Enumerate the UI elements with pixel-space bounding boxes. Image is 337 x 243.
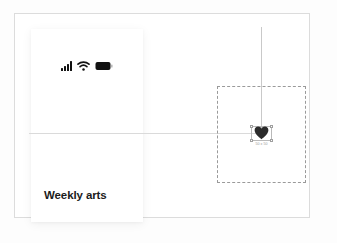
- battery-icon: [95, 61, 113, 71]
- page-title: Weekly arts: [44, 189, 107, 201]
- selected-object[interactable]: 50 x 50: [251, 126, 272, 150]
- dimension-label: 50 x 50: [251, 142, 272, 146]
- signal-icon: [61, 61, 72, 71]
- status-bar: [31, 57, 143, 75]
- artboard[interactable]: Weekly arts 50 x 50: [14, 13, 310, 218]
- resize-handle-top-left[interactable]: [250, 125, 253, 128]
- wifi-icon: [77, 61, 90, 71]
- mobile-preview-card[interactable]: Weekly arts: [31, 29, 143, 222]
- design-canvas[interactable]: Weekly arts 50 x 50: [0, 0, 337, 243]
- heart-icon[interactable]: [254, 126, 269, 140]
- resize-handle-top-right[interactable]: [270, 125, 273, 128]
